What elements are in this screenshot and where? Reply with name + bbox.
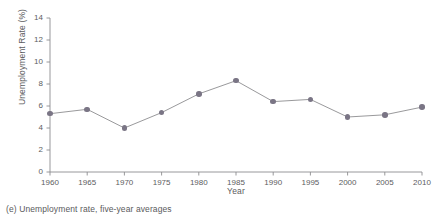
y-tick-label: 0 — [25, 168, 43, 176]
chart-canvas — [0, 0, 436, 196]
chart-axes — [47, 18, 423, 176]
y-tick-label: 2 — [25, 146, 43, 154]
data-line-series-1 — [50, 81, 422, 128]
y-tick-label: 4 — [25, 124, 43, 132]
x-tick-label: 2010 — [402, 179, 436, 187]
y-tick-label: 12 — [25, 36, 43, 44]
figure-caption: (e) Unemployment rate, five-year average… — [6, 204, 172, 214]
y-tick-label: 10 — [25, 58, 43, 66]
x-tick-label: 1960 — [30, 179, 70, 187]
x-tick-label: 1970 — [104, 179, 144, 187]
x-tick-label: 1975 — [142, 179, 182, 187]
chart-plot-area: Unemployment Rate (%) Year 02468101214 1… — [0, 0, 436, 196]
x-tick-label: 1965 — [67, 179, 107, 187]
data-point — [122, 125, 128, 131]
y-tick-label: 14 — [25, 14, 43, 22]
data-point — [419, 104, 425, 110]
x-tick-label: 1980 — [179, 179, 219, 187]
unemployment-rate-figure: Unemployment Rate (%) Year 02468101214 1… — [0, 0, 436, 224]
data-point — [382, 112, 388, 118]
y-tick-label: 8 — [25, 80, 43, 88]
x-tick-label: 1990 — [253, 179, 293, 187]
x-tick-label: 1985 — [216, 179, 256, 187]
y-tick-label: 6 — [25, 102, 43, 110]
x-tick-label: 2005 — [365, 179, 405, 187]
data-point — [84, 107, 90, 113]
x-tick-label: 2000 — [328, 179, 368, 187]
data-point — [196, 91, 202, 97]
x-tick-label: 1995 — [290, 179, 330, 187]
